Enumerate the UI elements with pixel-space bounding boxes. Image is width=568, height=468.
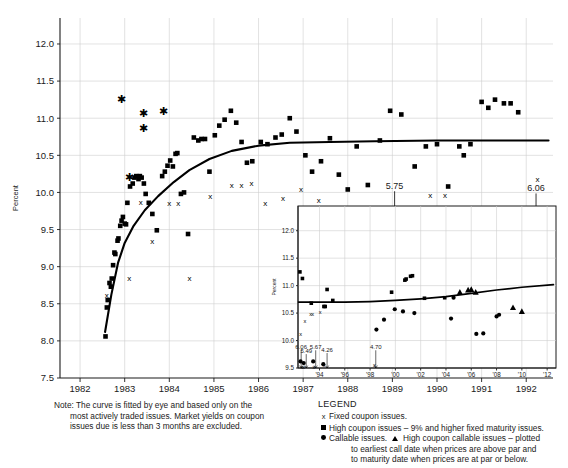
data-point-square (125, 201, 130, 206)
data-point-square (479, 100, 484, 105)
x-axis-tick-label: '98 (366, 371, 375, 378)
data-point-x: x (299, 185, 303, 194)
y-axis-tick-label: 9.5 (285, 364, 294, 371)
data-point-square (461, 153, 466, 158)
data-point-square (388, 108, 393, 113)
x-axis-tick-label: 1988 (337, 383, 358, 394)
data-point-square (287, 116, 292, 121)
y-axis-tick-label: 10.5 (36, 150, 55, 161)
y-axis-tick-label: 7.5 (41, 372, 54, 383)
x-axis-tick-label: '10 (518, 371, 527, 378)
data-point-square (203, 137, 208, 142)
note-label: Note: (54, 400, 74, 410)
data-point-square (378, 138, 383, 143)
x-marker-icon: x (318, 412, 329, 423)
data-point-square (337, 172, 342, 177)
note-line-2: most actively traded issues. Market yiel… (54, 411, 264, 422)
data-point-square (142, 181, 147, 186)
data-point-square (207, 169, 212, 174)
x-axis-tick-label: 1991 (471, 383, 492, 394)
y-axis-title: Percent (271, 278, 277, 296)
y-axis-tick-label: 10.0 (36, 187, 55, 198)
data-point-star: ✱ (125, 171, 134, 183)
y-axis-tick-label: 8.5 (41, 298, 54, 309)
data-point-x: x (428, 191, 432, 200)
data-point-square (354, 144, 359, 149)
data-point-square (446, 184, 451, 189)
data-point-x: x (150, 237, 154, 246)
data-point-square (229, 108, 234, 113)
y-axis-tick-label: 10.5 (282, 309, 295, 316)
data-point-square (265, 142, 270, 147)
data-point-x: x (323, 362, 326, 368)
data-point-circle (382, 318, 386, 322)
data-point-square (412, 164, 417, 169)
data-point-square (150, 212, 155, 217)
y-axis-tick-label: 9.0 (41, 261, 54, 272)
data-point-square (516, 110, 521, 115)
data-point-square (121, 215, 126, 220)
data-point-x: x (281, 194, 285, 203)
data-point-x: x (319, 309, 322, 315)
x-axis-tick-label: 1986 (248, 383, 269, 394)
data-point-square (245, 160, 250, 165)
y-axis-tick-label: 8.0 (41, 335, 54, 346)
data-point-square (399, 112, 404, 117)
legend-title: LEGEND (318, 399, 566, 409)
annotation-label: 4.26 (321, 347, 333, 353)
x-axis-tick-label: '96 (341, 371, 350, 378)
data-point-x: x (299, 331, 302, 337)
note-text: Note: The curve is fitted by eye and bas… (54, 400, 304, 432)
data-point-square (298, 270, 302, 274)
x-axis-tick-label: '08 (492, 371, 501, 378)
legend-item-high-coupon: High coupon issues – 9% and higher fixed… (318, 423, 566, 434)
data-point-x: x (304, 318, 307, 324)
data-point-square (493, 97, 498, 102)
circle-marker-icon (318, 433, 329, 444)
y-axis-title: Percent (11, 184, 20, 211)
legend-item-callable: Callable issues.High coupon callable iss… (318, 433, 566, 444)
data-point-square (258, 140, 263, 145)
annotation-label: 5.75 (386, 181, 404, 191)
x-axis-tick-label: '06 (467, 371, 476, 378)
legend-item-fixed-coupon: xFixed coupon issues. (318, 411, 566, 423)
data-point-circle (374, 327, 378, 331)
data-point-circle (481, 331, 485, 335)
data-point-square (217, 123, 222, 128)
data-point-square (331, 299, 335, 303)
y-axis-tick-label: 11.0 (36, 113, 54, 124)
x-axis-tick-label: '04 (442, 371, 451, 378)
data-point-square (279, 132, 284, 137)
data-point-circle (449, 316, 453, 320)
data-point-square (294, 129, 299, 134)
data-point-square (109, 284, 114, 289)
y-axis-tick-label: 11.5 (36, 75, 54, 86)
legend-block: LEGEND xFixed coupon issues. High coupon… (318, 399, 566, 465)
triangle-marker-icon (387, 433, 403, 444)
data-point-square (124, 222, 129, 227)
chart-inset: 9.510.010.511.011.512.0'94'96'98'00'02'0… (271, 206, 556, 378)
x-axis-tick-label: 1983 (114, 383, 135, 394)
data-point-x: x (105, 291, 109, 300)
data-point-circle (497, 313, 501, 317)
data-point-x: x (311, 311, 314, 317)
data-point-square (309, 301, 313, 305)
x-axis-tick-label: '00 (391, 371, 400, 378)
data-point-circle (401, 309, 405, 313)
x-axis-tick-label: 1992 (516, 383, 537, 394)
data-point-square (323, 305, 327, 309)
y-axis-tick-label: 12.0 (36, 38, 55, 49)
data-point-square (155, 228, 160, 233)
data-point-square (182, 190, 187, 195)
data-point-x: x (127, 274, 131, 283)
data-point-square (118, 224, 123, 229)
data-point-square (411, 274, 415, 278)
data-point-square (239, 140, 244, 145)
data-point-square (143, 192, 148, 197)
data-point-square (139, 175, 144, 180)
data-point-square (435, 142, 440, 147)
data-point-square (325, 288, 329, 292)
data-point-square (303, 153, 308, 158)
data-point-x: x (139, 198, 143, 207)
data-point-square (424, 144, 429, 149)
